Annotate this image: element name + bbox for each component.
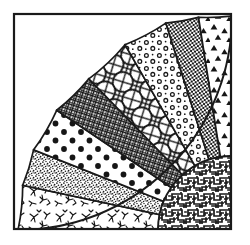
fan-pattern-illustration [0,0,250,245]
figure-root [0,0,250,245]
